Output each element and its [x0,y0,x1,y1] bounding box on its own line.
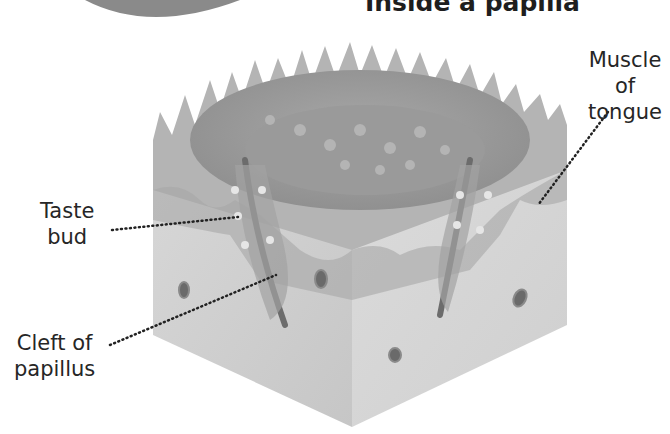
tongue-surface-fragment [85,0,240,17]
diagram-title: Inside a papilla [365,0,580,17]
label-muscle-of-tongue: Muscle of tongue [580,47,670,125]
label-line: papillus [14,356,95,382]
label-line: Cleft of [14,330,95,356]
papilla-illustration [0,0,670,434]
label-line: bud [40,224,94,250]
label-line: tongue [580,99,670,125]
label-cleft-of-papillus: Cleft of papillus [14,330,95,382]
label-taste-bud: Taste bud [40,198,94,250]
label-line: Muscle of [580,47,670,99]
label-line: Taste [40,198,94,224]
